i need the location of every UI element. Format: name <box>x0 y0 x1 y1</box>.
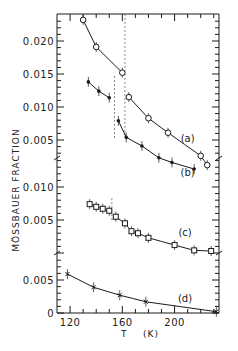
data-point-a <box>120 70 126 76</box>
data-point-b <box>140 144 144 148</box>
y-tick-label: 0.005 <box>23 135 54 146</box>
series-label-b: (b) <box>181 167 195 178</box>
data-point-b <box>117 119 121 123</box>
data-point-c <box>87 202 92 207</box>
y-tick-label: 0.015 <box>23 69 54 80</box>
y-axis-label: MÖSSBAUER FRACTION <box>11 128 21 251</box>
data-point-a <box>126 94 132 100</box>
data-point-a <box>93 44 99 50</box>
data-point-a <box>198 153 204 159</box>
y-tick-label: 0.010 <box>23 182 54 193</box>
y-tick-label: 0 <box>47 308 54 319</box>
data-point-c <box>209 249 214 254</box>
data-point-a <box>80 17 86 23</box>
series-label-a: (a) <box>181 133 195 144</box>
data-point-a <box>165 130 171 136</box>
data-point-c <box>122 221 127 226</box>
data-point-c <box>146 235 151 240</box>
data-point-b <box>157 156 161 160</box>
data-point-b <box>97 89 101 93</box>
data-point-c <box>136 231 141 236</box>
data-point-a <box>146 115 152 121</box>
fit-curve-b <box>118 121 194 169</box>
data-point-c <box>113 214 118 219</box>
x-axis-label: T (K) <box>120 329 159 339</box>
y-tick-label: 0.005 <box>23 215 54 226</box>
data-point-c <box>172 243 177 248</box>
data-point-b <box>124 136 128 140</box>
data-point-b <box>170 161 174 165</box>
mossbauer-chart: 120160200 0.0200.0150.0100.0050.0100.005… <box>0 0 238 351</box>
data-point-c <box>192 248 197 253</box>
data-point-b <box>87 80 91 84</box>
y-tick-label: 0.005 <box>23 275 54 286</box>
fit-curves <box>67 14 216 312</box>
fit-curve-d <box>67 274 216 312</box>
data-point-c <box>129 229 134 234</box>
y-tick-label: 0.010 <box>23 102 54 113</box>
data-point-c <box>100 206 105 211</box>
x-tick-label: 160 <box>112 317 133 328</box>
series-label-d: (d) <box>178 293 192 304</box>
fit-curve-a <box>83 20 122 73</box>
series-labels: (a)(b)(c)(d) <box>178 133 195 304</box>
data-point-b <box>107 96 111 100</box>
data-points <box>65 15 218 317</box>
data-point-a <box>204 162 210 168</box>
data-point-c <box>107 208 112 213</box>
x-tick-label: 200 <box>164 317 185 328</box>
plot-frame <box>54 14 222 313</box>
y-tick-label: 0.020 <box>23 36 54 47</box>
series-label-c: (c) <box>178 227 191 238</box>
x-tick-label: 120 <box>60 317 81 328</box>
data-point-c <box>94 204 99 209</box>
